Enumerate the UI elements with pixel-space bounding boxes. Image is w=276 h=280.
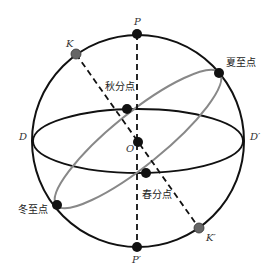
point-autumnal-equinox bbox=[122, 104, 132, 114]
label-p-prime: P′ bbox=[131, 254, 142, 265]
point-p bbox=[132, 29, 142, 39]
celestial-sphere-diagram: P P′ K K′ D D′ O 秋分点 春分点 夏至点 冬至点 bbox=[0, 0, 276, 280]
label-p: P bbox=[133, 16, 141, 27]
label-d-prime: D′ bbox=[249, 131, 261, 142]
point-k bbox=[71, 49, 81, 59]
point-k-prime bbox=[194, 223, 204, 233]
label-d: D bbox=[18, 131, 27, 142]
point-p-prime bbox=[132, 242, 142, 252]
label-k-prime: K′ bbox=[205, 232, 216, 243]
label-winter-solstice: 冬至点 bbox=[18, 203, 48, 215]
label-vernal-equinox: 春分点 bbox=[142, 189, 172, 200]
label-autumnal-equinox: 秋分点 bbox=[105, 80, 135, 92]
label-summer-solstice: 夏至点 bbox=[226, 57, 256, 68]
point-o bbox=[133, 137, 143, 147]
label-k: K bbox=[65, 38, 74, 49]
point-winter-solstice bbox=[52, 200, 62, 210]
point-summer-solstice bbox=[214, 68, 224, 78]
point-vernal-equinox bbox=[141, 168, 151, 178]
label-o: O bbox=[126, 143, 134, 154]
